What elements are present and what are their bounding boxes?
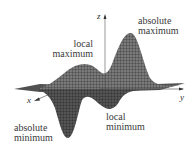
local-maximum-label: local maximum [49,39,93,59]
label-line: maximum [138,26,179,36]
y-axis-label: y [180,92,184,102]
label-line: minimum [14,133,53,143]
surface-plot-figure: z y x absolute maximum local maximum abs… [0,0,195,149]
label-line: minimum [106,122,145,132]
y-axis-arrow-icon [179,88,184,91]
label-line: maximum [49,49,93,59]
z-axis-label: z [97,11,101,21]
x-axis-arrow-icon [34,98,40,102]
absolute-maximum-label: absolute maximum [138,16,179,36]
local-minimum-label: local minimum [106,112,145,132]
x-axis-label: x [27,95,31,105]
z-axis-arrow-icon [104,14,107,19]
absolute-minimum-label: absolute minimum [14,123,53,143]
